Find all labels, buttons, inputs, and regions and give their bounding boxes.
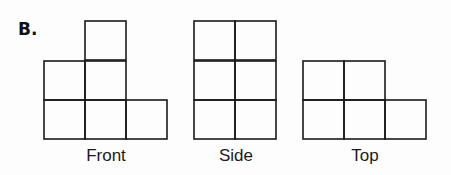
square-cell <box>235 61 276 100</box>
square-cell <box>235 100 276 139</box>
front-view <box>44 21 167 139</box>
square-cell <box>303 100 344 139</box>
square-cell <box>235 21 276 60</box>
top-view <box>303 61 426 139</box>
square-cell <box>126 100 167 139</box>
square-cell <box>344 61 385 100</box>
front-view-label: Front <box>86 146 126 166</box>
square-cell <box>85 21 126 60</box>
square-cell <box>303 61 344 100</box>
side-view <box>194 21 276 139</box>
square-cell <box>44 61 85 100</box>
square-cell <box>344 100 385 139</box>
square-cell <box>194 100 235 139</box>
side-view-label: Side <box>219 146 253 166</box>
square-cell <box>194 61 235 100</box>
square-cell <box>44 100 85 139</box>
square-cell <box>385 100 426 139</box>
square-cell <box>85 100 126 139</box>
square-cell <box>85 61 126 100</box>
top-view-label: Top <box>351 146 378 166</box>
square-cell <box>194 21 235 60</box>
